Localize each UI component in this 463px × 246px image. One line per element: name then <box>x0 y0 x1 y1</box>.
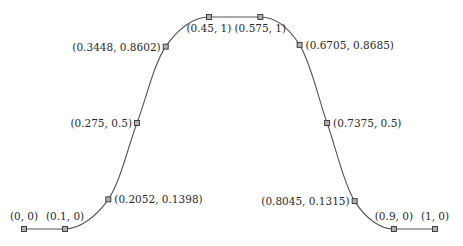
control-point-marker[interactable] <box>433 227 438 232</box>
point-label: (0.6705, 0.8685) <box>306 39 394 51</box>
point-label: (0.575, 1) <box>235 22 287 34</box>
control-point-marker[interactable] <box>325 121 330 126</box>
control-point-marker[interactable] <box>206 15 211 20</box>
curve-diagram: (0, 0)(0.1, 0)(0.2052, 0.1398)(0.275, 0.… <box>0 0 463 246</box>
point-label: (0.7375, 0.5) <box>333 117 401 129</box>
point-label: (0.8045, 0.1315) <box>261 195 349 207</box>
point-label: (1, 0) <box>421 210 449 222</box>
control-point-marker[interactable] <box>22 227 27 232</box>
control-point-marker[interactable] <box>258 15 263 20</box>
control-point-marker[interactable] <box>106 197 111 202</box>
point-label: (0.275, 0.5) <box>70 117 132 129</box>
control-point-marker[interactable] <box>63 227 68 232</box>
point-label: (0.1, 0) <box>46 210 84 222</box>
point-label: (0.9, 0) <box>375 210 413 222</box>
point-label: (0.2052, 0.1398) <box>114 193 202 205</box>
point-label: (0.45, 1) <box>186 22 231 34</box>
control-point-marker[interactable] <box>352 199 357 204</box>
control-point-marker[interactable] <box>297 42 302 47</box>
control-point-marker[interactable] <box>163 44 168 49</box>
point-label: (0, 0) <box>10 210 38 222</box>
point-label: (0.3448, 0.8602) <box>72 41 160 53</box>
control-point-marker[interactable] <box>391 227 396 232</box>
control-point-marker[interactable] <box>135 121 140 126</box>
